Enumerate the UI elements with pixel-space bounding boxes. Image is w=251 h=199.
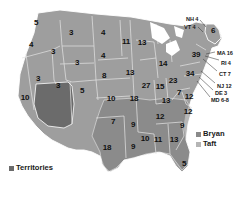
legend-label-taft: Taft	[203, 139, 216, 149]
state-ev-mn: 11	[122, 38, 130, 46]
legend-label-territories: Territories	[16, 163, 53, 173]
state-ev-ut: 3	[56, 82, 60, 90]
state-ev-tn: 12	[156, 113, 165, 121]
state-ev-ms: 10	[141, 135, 150, 143]
callout-ma: MA 16	[217, 51, 233, 57]
state-ev-ar: 9	[131, 121, 135, 129]
state-ev-sc: 9	[180, 122, 184, 130]
state-ev-wi: 13	[138, 39, 147, 47]
state-ev-nc: 12	[184, 108, 193, 116]
state-ev-ny: 39	[192, 51, 201, 59]
state-ev-mi: 14	[159, 60, 168, 68]
state-ev-in: 15	[156, 83, 165, 91]
state-ev-mt: 3	[69, 29, 73, 37]
state-ev-wv: 7	[177, 89, 181, 97]
legend-item-bryan: Bryan	[196, 129, 225, 139]
legend-swatch-taft	[196, 142, 201, 147]
legend-territories: Territories	[9, 163, 53, 173]
state-ev-ia: 13	[126, 69, 135, 77]
state-ev-ne: 8	[102, 72, 106, 80]
legend-item-taft: Taft	[196, 139, 225, 149]
state-ev-nv: 3	[36, 75, 40, 83]
state-ev-fl: 5	[182, 160, 186, 168]
state-ev-sd: 4	[101, 52, 105, 60]
state-ev-me: 6	[211, 27, 215, 35]
state-ev-ks: 10	[107, 95, 116, 103]
legend-swatch-bryan	[196, 132, 201, 137]
callout-vt: VT 4	[184, 25, 195, 31]
state-ev-id: 3	[51, 48, 55, 56]
state-ev-al: 11	[154, 136, 162, 144]
map-states-group	[18, 10, 222, 172]
legend-item-territories: Territories	[9, 163, 53, 173]
legend-label-bryan: Bryan	[203, 129, 225, 139]
state-ev-tx: 18	[103, 144, 112, 152]
state-ev-oh: 23	[169, 77, 178, 85]
state-ev-ca: 10	[21, 94, 30, 102]
callout-nh: NH 4	[186, 17, 198, 23]
state-ev-la: 9	[131, 143, 135, 151]
callout-nj: NJ 12	[217, 84, 231, 90]
state-ev-wy: 3	[75, 59, 79, 67]
state-ev-ok: 7	[111, 118, 115, 126]
state-ev-ga: 13	[170, 136, 179, 144]
callout-ri: RI 4	[221, 61, 231, 67]
state-ev-pa: 34	[186, 70, 195, 78]
legend-swatch-territories	[9, 166, 14, 171]
state-ev-or: 4	[29, 41, 33, 49]
legend-candidates: BryanTaft	[196, 129, 225, 149]
callout-ct: CT 7	[219, 72, 231, 78]
callout-md: MD 6-8	[211, 98, 229, 104]
state-ev-il: 27	[142, 82, 151, 90]
state-ev-mo: 18	[130, 95, 139, 103]
state-ev-va: 12	[185, 93, 194, 101]
state-ev-nd: 4	[101, 29, 105, 37]
state-ev-co: 5	[80, 87, 84, 95]
us-electoral-map-figure: 5433443335108107181113189913271514231312…	[0, 0, 251, 199]
state-ev-ky: 13	[162, 97, 171, 105]
state-ev-wa: 5	[34, 19, 38, 27]
callout-de: DE 3	[215, 91, 227, 97]
